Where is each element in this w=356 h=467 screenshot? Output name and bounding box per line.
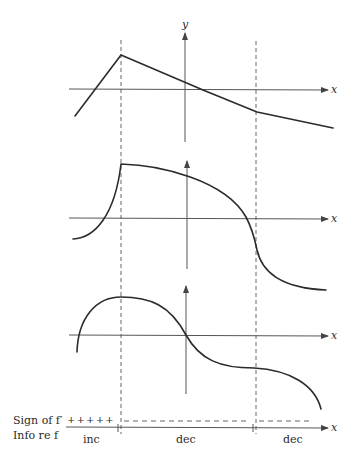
sign-chart-x-label: x	[331, 421, 338, 434]
graph-3: x	[69, 286, 338, 409]
interval-dec-middle-label: dec	[176, 433, 196, 446]
info-re-f-label: Info re f	[13, 429, 59, 442]
graph-2-x-label: x	[331, 212, 338, 225]
graph-1-x-axis	[69, 89, 328, 90]
sign-chart-axis	[66, 427, 328, 428]
graph-1: x y	[69, 18, 338, 142]
graph-2: x	[69, 161, 338, 290]
interval-inc-label: inc	[83, 433, 100, 446]
graph-3-curve	[77, 297, 321, 409]
sign-positive: + + + + +	[67, 414, 113, 425]
sign-of-derivative-label: Sign of f′	[13, 414, 63, 427]
graph-2-curve	[73, 164, 326, 290]
graph-1-curve	[75, 55, 333, 128]
interval-dec-right-label: dec	[283, 433, 303, 446]
graph-3-x-axis	[69, 335, 328, 336]
graph-2-x-axis	[69, 218, 328, 219]
derivative-sign-diagram: x y x x x Sign of f′ Info re f + + + + +…	[0, 0, 356, 467]
sign-chart: x Sign of f′ Info re f + + + + + inc dec…	[13, 414, 338, 446]
graph-1-x-label: x	[331, 83, 338, 96]
graph-1-y-label: y	[181, 18, 189, 31]
graph-3-x-label: x	[331, 329, 338, 342]
